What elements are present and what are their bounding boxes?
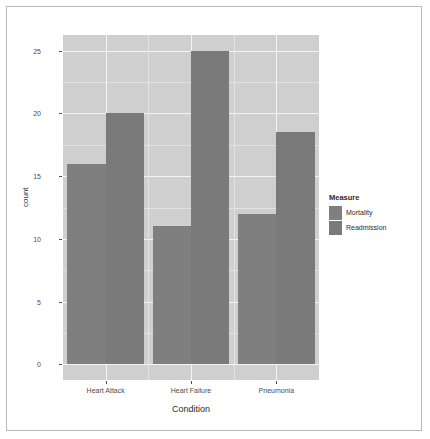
y-tick-mark [59, 51, 62, 52]
plot-panel [63, 35, 319, 380]
legend-item-label: Readmission [346, 224, 386, 231]
chart-figure: 0510152025 Heart AttackHeart FailurePneu… [0, 0, 430, 439]
y-tick-label: 25 [33, 47, 41, 54]
legend-items: MortalityReadmission [329, 205, 425, 235]
bar [276, 132, 314, 364]
gridline-minor-x [148, 35, 149, 380]
x-tick-label: Heart Attack [87, 387, 125, 394]
legend-item-label: Mortality [346, 209, 372, 216]
y-tick-mark [59, 176, 62, 177]
y-tick-mark [59, 239, 62, 240]
y-tick-label: 0 [37, 361, 41, 368]
legend-item[interactable]: Readmission [329, 220, 425, 235]
bar [67, 164, 105, 365]
legend-title: Measure [329, 193, 425, 202]
y-tick-label: 10 [33, 235, 41, 242]
y-axis-label: count [21, 187, 30, 207]
legend-item[interactable]: Mortality [329, 205, 425, 220]
y-tick-label: 5 [37, 298, 41, 305]
x-tick-label: Pneumonia [259, 387, 294, 394]
y-tick-mark [59, 113, 62, 114]
bar [106, 113, 144, 364]
legend: Measure MortalityReadmission [329, 193, 425, 235]
bar [153, 226, 191, 364]
y-tick-label: 20 [33, 110, 41, 117]
bar [238, 214, 276, 365]
gridline-minor-x [234, 35, 235, 380]
legend-key-swatch [329, 206, 342, 220]
bar [191, 51, 229, 365]
y-tick-mark [59, 302, 62, 303]
y-tick-label: 15 [33, 173, 41, 180]
legend-key-swatch [329, 221, 342, 235]
x-tick-mark [191, 381, 192, 384]
y-tick-mark [59, 364, 62, 365]
x-tick-label: Heart Failure [171, 387, 211, 394]
figure-border: 0510152025 Heart AttackHeart FailurePneu… [6, 6, 422, 431]
x-tick-mark [276, 381, 277, 384]
x-axis-label: Condition [63, 404, 319, 414]
x-tick-mark [106, 381, 107, 384]
